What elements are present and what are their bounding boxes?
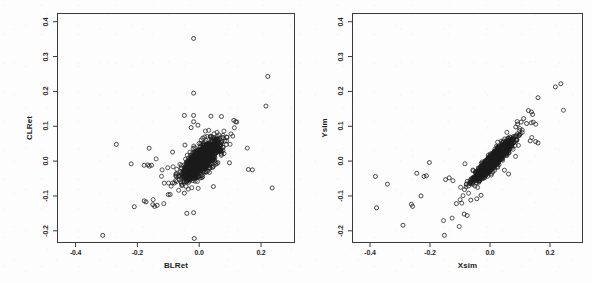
data-points <box>0 0 296 283</box>
scatter-panel-blret-clret: -0.4-0.20.00.2-0.2-0.10.00.10.20.30.4BLR… <box>0 0 296 283</box>
scatter-plot-figure: -0.4-0.20.00.2-0.2-0.10.00.10.20.30.4BLR… <box>0 0 592 283</box>
scatter-panel-xsim-ysim: -0.4-0.20.00.2-0.2-0.10.00.10.20.30.4Xsi… <box>296 0 592 283</box>
data-points <box>296 0 592 283</box>
